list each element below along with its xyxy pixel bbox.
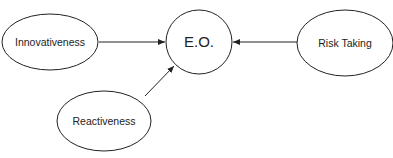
node-risk-taking[interactable]: Risk Taking bbox=[297, 10, 393, 76]
node-reactiveness[interactable]: Reactiveness bbox=[57, 91, 151, 151]
edge-reactiveness-eo bbox=[145, 66, 174, 96]
node-eo[interactable]: E.O. bbox=[166, 10, 232, 74]
node-reactiveness-label: Reactiveness bbox=[72, 115, 135, 127]
node-risk-taking-label: Risk Taking bbox=[318, 37, 372, 49]
node-eo-label: E.O. bbox=[184, 33, 214, 50]
diagram-canvas: E.O. Innovativeness Reactiveness Risk Ta… bbox=[0, 0, 393, 158]
node-innovativeness[interactable]: Innovativeness bbox=[2, 14, 98, 70]
node-innovativeness-label: Innovativeness bbox=[15, 36, 85, 48]
